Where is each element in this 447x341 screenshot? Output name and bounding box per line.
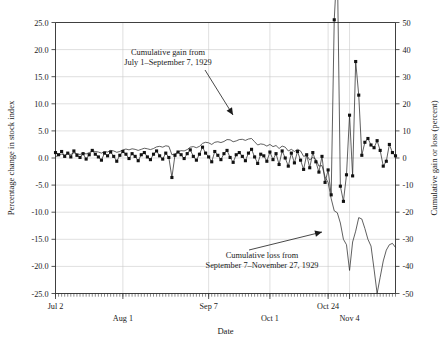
data-point-marker <box>388 143 391 146</box>
y2-axis-tick-label: -40 <box>403 262 414 271</box>
data-point-marker <box>63 155 66 158</box>
data-point-marker <box>369 143 372 146</box>
data-point-marker <box>118 154 121 157</box>
data-point-marker <box>173 154 176 157</box>
data-point-marker <box>345 173 348 176</box>
data-point-marker <box>100 159 103 162</box>
y-axis-tick-label: -20.0 <box>31 262 48 271</box>
data-point-marker <box>327 168 330 171</box>
data-point-marker <box>189 148 192 151</box>
data-point-marker <box>201 146 204 149</box>
data-point-marker <box>176 150 179 153</box>
data-point-marker <box>210 160 213 163</box>
data-point-marker <box>82 152 85 155</box>
data-point-marker <box>127 157 130 160</box>
data-point-marker <box>293 161 296 164</box>
data-point-marker <box>351 174 354 177</box>
data-point-marker <box>54 151 57 154</box>
data-point-marker <box>216 154 219 157</box>
y2-axis-tick-label: 0 <box>403 154 407 163</box>
x-axis-tick-label: Jul 2 <box>48 302 64 311</box>
data-point-marker <box>72 149 75 152</box>
data-point-marker <box>134 155 137 158</box>
data-point-marker <box>373 146 376 149</box>
data-point-marker <box>271 158 274 161</box>
data-point-marker <box>75 154 78 157</box>
data-point-marker <box>66 152 69 155</box>
data-point-marker <box>308 166 311 169</box>
y2-axis-tick-label: 50 <box>403 19 411 28</box>
data-point-marker <box>115 160 118 163</box>
data-point-marker <box>241 155 244 158</box>
stock-index-chart: 25.020.015.010.05.00.0-5.0-10.0-15.0-20.… <box>0 0 447 341</box>
data-point-marker <box>204 152 207 155</box>
y2-axis-tick-label: -20 <box>403 208 414 217</box>
data-point-marker <box>366 137 369 140</box>
data-point-marker <box>222 152 225 155</box>
y-axis-tick-label: 15.0 <box>34 73 48 82</box>
data-point-marker <box>109 150 112 153</box>
data-point-marker <box>155 149 158 152</box>
x-axis-tick-label: Nov 4 <box>339 314 359 323</box>
data-point-marker <box>391 151 394 154</box>
percentage-change-line <box>56 0 396 201</box>
data-point-marker <box>106 154 109 157</box>
y2-axis-tick-label: -50 <box>403 290 414 299</box>
cumulative-loss-annotation-line: Cumulative loss from <box>226 251 299 260</box>
data-point-marker <box>183 157 186 160</box>
y-axis-title: Percentage change in stock index <box>6 100 16 215</box>
x-axis-title: Date <box>217 326 233 336</box>
data-point-marker <box>88 153 91 156</box>
x-axis-tick-label: Sep 7 <box>199 302 217 311</box>
data-point-marker <box>253 155 256 158</box>
y2-axis-title: Cumulative gain or loss (percent) <box>429 100 439 215</box>
y-axis-tick-label: -10.0 <box>31 208 48 217</box>
data-point-marker <box>140 153 143 156</box>
data-point-marker <box>314 160 317 163</box>
y-axis-tick-label: 5.0 <box>38 127 48 136</box>
data-point-marker <box>152 153 155 156</box>
data-point-marker <box>143 151 146 154</box>
data-point-marker <box>244 159 247 162</box>
data-point-marker <box>274 152 277 155</box>
data-point-marker <box>317 171 320 174</box>
data-point-marker <box>170 176 173 179</box>
y-axis-tick-label: 25.0 <box>34 19 48 28</box>
data-point-marker <box>296 150 299 153</box>
data-point-marker <box>287 165 290 168</box>
data-point-marker <box>180 153 183 156</box>
data-point-marker <box>121 150 124 153</box>
data-point-marker <box>213 150 216 153</box>
data-point-marker <box>333 18 336 21</box>
cumulative-loss-annotation-arrow <box>249 232 322 250</box>
data-point-marker <box>382 165 385 168</box>
y2-axis-tick-label: -30 <box>403 235 414 244</box>
data-point-marker <box>137 159 140 162</box>
cumulative-gain-annotation-line: Cumulative gain from <box>131 48 205 57</box>
data-point-marker <box>112 155 115 158</box>
data-point-marker <box>186 152 189 155</box>
data-point-marker <box>85 158 88 161</box>
x-axis-tick-label: Oct 1 <box>261 314 279 323</box>
data-point-marker <box>94 153 97 156</box>
data-point-marker <box>124 153 127 156</box>
data-point-marker <box>290 152 293 155</box>
cumulative-gain-loss-line <box>56 138 396 293</box>
y-axis-tick-label: -25.0 <box>31 290 48 299</box>
y2-axis-tick-label: -10 <box>403 181 414 190</box>
data-point-marker <box>256 162 259 165</box>
data-point-marker <box>97 155 100 158</box>
data-point-marker <box>385 160 388 163</box>
data-point-marker <box>78 156 81 159</box>
data-point-marker <box>262 154 265 157</box>
cumulative-loss-annotation-line: September 7–November 27, 1929 <box>205 261 318 270</box>
data-point-marker <box>339 185 342 188</box>
y-axis-tick-label: 20.0 <box>34 46 48 55</box>
data-point-marker <box>219 158 222 161</box>
data-point-marker <box>305 153 308 156</box>
data-point-marker <box>342 200 345 203</box>
data-point-marker <box>103 152 106 155</box>
data-point-marker <box>259 153 262 156</box>
data-point-marker <box>60 150 63 153</box>
data-point-marker <box>167 156 170 159</box>
